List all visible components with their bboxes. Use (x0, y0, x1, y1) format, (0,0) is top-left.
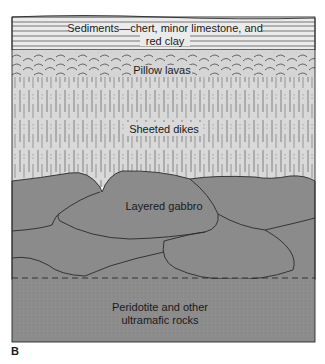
panel-label: B (11, 345, 19, 357)
peridotite-layer: Peridotite and other ultramafic rocks (12, 278, 315, 342)
layered-gabbro-layer: Layered gabbro (12, 171, 315, 280)
sheeted-dikes-label: Sheeted dikes (129, 123, 199, 135)
sediments-label-line2: red clay (146, 35, 185, 47)
sediments-label-line1: Sediments—chert, minor limestone, and (67, 22, 263, 34)
pillow-lavas-layer: Pillow lavas (12, 50, 315, 77)
layered-gabbro-label: Layered gabbro (125, 200, 202, 212)
sediments-layer: Sediments—chert, minor limestone, and re… (12, 16, 315, 51)
peridotite-label-line2: ultramafic rocks (121, 314, 199, 326)
ophiolite-cross-section: Sediments—chert, minor limestone, and re… (0, 0, 325, 364)
sheeted-dikes-layer: Sheeted dikes (12, 77, 315, 187)
pillow-lavas-label: Pillow lavas (133, 64, 191, 76)
peridotite-label-line1: Peridotite and other (112, 301, 208, 313)
